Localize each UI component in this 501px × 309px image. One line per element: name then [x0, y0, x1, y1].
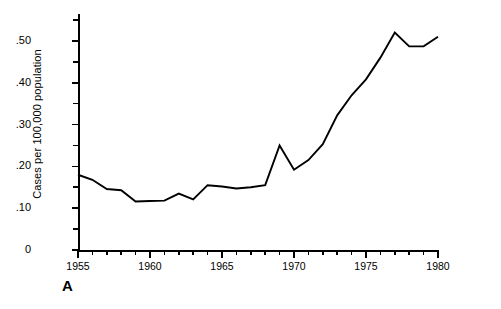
- x-tick-minor: [408, 250, 410, 255]
- x-tick-label: 1975: [344, 260, 388, 272]
- x-axis-line: [78, 250, 438, 252]
- x-tick-minor: [308, 250, 310, 255]
- x-tick-label: 1970: [272, 260, 316, 272]
- x-tick-major: [365, 250, 367, 258]
- x-tick-minor: [336, 250, 338, 255]
- x-tick-minor: [135, 250, 137, 255]
- plot-area: 0.10.20.30.40.50 19551960196519701975198…: [78, 20, 438, 250]
- x-tick-minor: [207, 250, 209, 255]
- x-tick-minor: [279, 250, 281, 255]
- x-tick-minor: [164, 250, 166, 255]
- x-tick-minor: [192, 250, 194, 255]
- x-tick-minor: [120, 250, 122, 255]
- y-tick-label: 0: [0, 243, 31, 255]
- x-tick-minor: [380, 250, 382, 255]
- y-tick-label: .10: [0, 201, 31, 213]
- x-tick-minor: [423, 250, 425, 255]
- x-tick-major: [221, 250, 223, 258]
- x-tick-major: [293, 250, 295, 258]
- line-path: [78, 33, 438, 202]
- data-line-series: [78, 20, 438, 250]
- x-tick-minor: [178, 250, 180, 255]
- x-tick-minor: [351, 250, 353, 255]
- panel-letter-label: A: [62, 277, 73, 294]
- x-tick-minor: [394, 250, 396, 255]
- x-tick-minor: [322, 250, 324, 255]
- x-tick-minor: [264, 250, 266, 255]
- x-tick-label: 1965: [200, 260, 244, 272]
- x-tick-major: [149, 250, 151, 258]
- x-tick-label: 1960: [128, 260, 172, 272]
- x-tick-label: 1955: [56, 260, 100, 272]
- x-tick-minor: [106, 250, 108, 255]
- x-tick-minor: [236, 250, 238, 255]
- x-tick-minor: [250, 250, 252, 255]
- y-tick-label: .40: [0, 76, 31, 88]
- y-tick-label: .50: [0, 34, 31, 46]
- x-tick-label: 1980: [416, 260, 460, 272]
- y-tick-label: .30: [0, 118, 31, 130]
- x-tick-minor: [92, 250, 94, 255]
- figure-panel-a: Cases per 100,000 population 0.10.20.30.…: [0, 0, 501, 309]
- y-axis-title: Cases per 100,000 population: [31, 19, 43, 229]
- x-tick-major: [77, 250, 79, 258]
- y-tick-label: .20: [0, 159, 31, 171]
- x-tick-major: [437, 250, 439, 258]
